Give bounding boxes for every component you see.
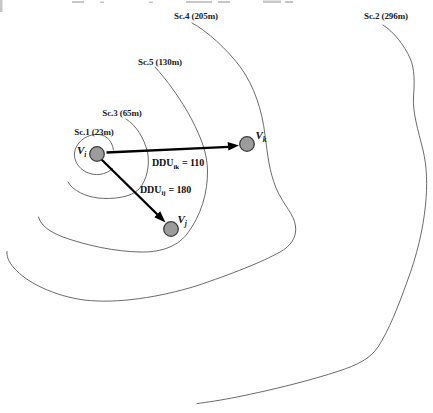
node-vj: Vj: [164, 213, 188, 236]
node-label-vi: Vi: [77, 144, 87, 159]
scenario-label-sc1: Sc.1 (23m): [74, 127, 114, 137]
contour-scenario-figure: Sc.1 (23m) Sc.3 (65m) Sc.5 (130m) Sc.4 (…: [0, 0, 433, 413]
scenario-label-sc3: Sc.3 (65m): [102, 108, 142, 118]
node-label-vj: Vj: [178, 213, 188, 228]
node-label-vk: Vk: [256, 129, 267, 144]
scenario-label-sc5: Sc.5 (130m): [138, 57, 182, 67]
edge-label-ik: DDUik= 110: [152, 157, 204, 171]
node-vi-circle: [90, 147, 105, 162]
edge-label-ij: DDUij= 180: [140, 184, 191, 198]
node-vk: Vk: [240, 129, 267, 151]
arrowhead-ik: [228, 142, 239, 150]
node-vk-circle: [240, 137, 255, 152]
node-vi: Vi: [77, 144, 104, 161]
scenario-label-sc4: Sc.4 (205m): [174, 11, 218, 21]
node-vj-circle: [164, 222, 179, 237]
scenario-label-sc2: Sc.2 (296m): [364, 11, 408, 21]
edge-ik: DDUik= 110: [107, 142, 240, 171]
cropped-caption-artifact: [0, 0, 293, 12]
diagram-svg: Sc.1 (23m) Sc.3 (65m) Sc.5 (130m) Sc.4 (…: [0, 0, 433, 413]
contour-sc2: [197, 25, 427, 404]
